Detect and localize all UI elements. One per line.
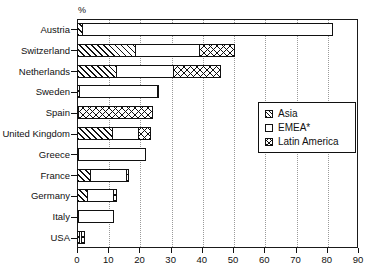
- y-axis-labels: AustriaSwitzerlandNetherlandsSwedenSpain…: [0, 19, 74, 248]
- bar-segment-emea: [90, 169, 127, 182]
- bar-segment-emea: [78, 210, 114, 223]
- stacked-bar-netherlands: [77, 65, 221, 78]
- bar-segment-latam: [126, 169, 129, 182]
- x-axis-label-80: 80: [321, 254, 332, 265]
- bar-segment-latam: [157, 85, 159, 98]
- bar-segment-latam: [113, 189, 116, 202]
- bar-segment-emea: [82, 23, 333, 36]
- bar-row: [77, 206, 358, 227]
- bar-row: [77, 81, 358, 102]
- x-axis-tick-0: [77, 248, 78, 253]
- bar-segment-emea: [116, 65, 174, 78]
- bar-segment-asia: [77, 127, 113, 140]
- x-axis-label-10: 10: [103, 254, 114, 265]
- bar-row: [77, 186, 358, 207]
- bar-segment-asia: [77, 65, 118, 78]
- x-axis-label-70: 70: [290, 254, 301, 265]
- x-axis-tick-30: [171, 248, 172, 253]
- y-axis-label-usa: USA: [50, 227, 70, 248]
- stacked-bar-italy: [77, 210, 114, 223]
- stacked-bar-spain: [77, 106, 153, 119]
- legend-label: Latin America: [278, 136, 339, 147]
- x-axis-tick-60: [264, 248, 265, 253]
- bar-segment-latam: [173, 65, 221, 78]
- y-axis-label-italy: Italy: [53, 206, 70, 227]
- y-axis-label-united-kingdom: United Kingdom: [2, 123, 70, 144]
- x-axis-label-40: 40: [197, 254, 208, 265]
- legend-item-latam: Latin America: [265, 135, 350, 148]
- y-axis-label-netherlands: Netherlands: [19, 61, 70, 82]
- bar-segment-latam: [78, 106, 153, 119]
- bar-segment-latam: [199, 44, 235, 57]
- bar-segment-emea: [87, 189, 115, 202]
- bar-segment-latam: [138, 127, 150, 140]
- legend-label: Asia: [278, 108, 297, 119]
- x-axis-tick-80: [327, 248, 328, 253]
- x-axis-tick-20: [139, 248, 140, 253]
- x-axis-tick-50: [233, 248, 234, 253]
- x-axis-label-20: 20: [134, 254, 145, 265]
- stacked-bar-france: [77, 169, 129, 182]
- bar-segment-emea: [135, 44, 201, 57]
- bar-row: [77, 227, 358, 248]
- legend-label: EMEA*: [278, 122, 310, 133]
- chart-legend: AsiaEMEA*Latin America: [258, 102, 356, 153]
- legend-item-emea: EMEA*: [265, 121, 350, 134]
- x-axis-label-50: 50: [228, 254, 239, 265]
- y-axis-label-switzerland: Switzerland: [21, 40, 70, 61]
- y-axis-unit-label: %: [78, 5, 86, 15]
- bar-row: [77, 40, 358, 61]
- bar-segment-emea: [79, 85, 159, 98]
- legend-item-asia: Asia: [265, 107, 350, 120]
- y-axis-label-spain: Spain: [46, 102, 70, 123]
- bar-row: [77, 165, 358, 186]
- stacked-bar-greece: [77, 148, 146, 161]
- stacked-bar-switzerland: [77, 44, 235, 57]
- x-axis-label-90: 90: [353, 254, 364, 265]
- legend-swatch-asia-icon: [265, 110, 273, 118]
- stacked-bar-usa: [77, 231, 85, 244]
- legend-swatch-emea-icon: [265, 124, 273, 132]
- x-axis-label-30: 30: [165, 254, 176, 265]
- x-axis-tick-90: [358, 248, 359, 253]
- bar-segment-latam: [81, 231, 86, 244]
- bar-segment-emea: [112, 127, 140, 140]
- bar-row: [77, 19, 358, 40]
- stacked-bar-austria: [77, 23, 333, 36]
- bar-row: [77, 61, 358, 82]
- bar-segment-emea: [78, 148, 146, 161]
- stacked-bar-chart: % AustriaSwitzerlandNetherlandsSwedenSpa…: [0, 0, 373, 270]
- stacked-bar-germany: [77, 189, 117, 202]
- y-axis-label-sweden: Sweden: [36, 81, 70, 102]
- stacked-bar-sweden: [77, 85, 159, 98]
- x-axis-tick-10: [108, 248, 109, 253]
- stacked-bar-united-kingdom: [77, 127, 151, 140]
- y-axis-label-austria: Austria: [40, 19, 70, 40]
- x-axis-label-0: 0: [74, 254, 79, 265]
- y-axis-label-germany: Germany: [31, 186, 70, 207]
- x-axis: 0102030405060708090: [77, 248, 358, 268]
- x-axis-label-60: 60: [259, 254, 270, 265]
- x-axis-tick-40: [202, 248, 203, 253]
- bar-segment-asia: [77, 44, 136, 57]
- y-axis-label-france: France: [40, 165, 70, 186]
- legend-swatch-latam-icon: [265, 138, 273, 146]
- y-axis-label-greece: Greece: [39, 144, 70, 165]
- x-axis-tick-70: [296, 248, 297, 253]
